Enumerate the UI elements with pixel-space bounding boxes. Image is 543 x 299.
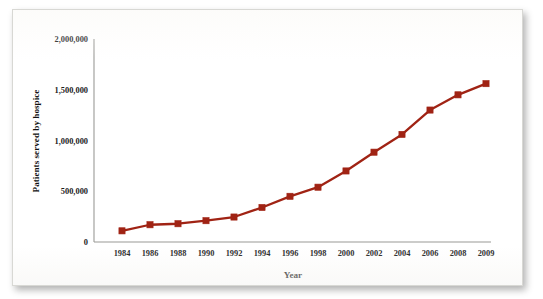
- x-tick-label: 2008: [450, 249, 467, 258]
- x-tick-labels: 1984198619881990199219941996199820002002…: [114, 249, 495, 258]
- y-axis-title: Patients served by hospice: [31, 90, 41, 193]
- data-point-marker: [287, 193, 293, 199]
- x-axis-title: Year: [284, 270, 302, 280]
- data-point-marker: [259, 204, 265, 210]
- x-tick-label: 2002: [366, 249, 383, 258]
- y-tick-label: 1,000,000: [55, 137, 89, 146]
- x-tick-label: 1988: [170, 249, 187, 258]
- data-point-marker: [399, 131, 405, 137]
- y-tick-label: 0: [84, 238, 88, 247]
- x-tick-label: 2004: [394, 249, 412, 258]
- line-chart: 0500,0001,000,0001,500,0002,000,000 1984…: [13, 10, 522, 285]
- data-point-marker: [203, 218, 209, 224]
- data-point-marker: [175, 221, 181, 227]
- x-tick-label: 1992: [226, 249, 243, 258]
- series-markers: [119, 81, 489, 234]
- x-tick-label: 2006: [422, 249, 439, 258]
- y-tick-label: 500,000: [61, 187, 88, 196]
- y-tick-labels: 0500,0001,000,0001,500,0002,000,000: [55, 35, 89, 247]
- y-tick-label: 2,000,000: [55, 35, 89, 44]
- x-tick-label: 1984: [114, 249, 132, 258]
- figure-root: 0500,0001,000,0001,500,0002,000,000 1984…: [0, 0, 543, 299]
- x-tick-label: 1998: [310, 249, 327, 258]
- x-tick-label: 2000: [338, 249, 355, 258]
- data-point-marker: [119, 228, 125, 234]
- data-point-marker: [483, 81, 489, 87]
- x-tick-label: 1994: [254, 249, 272, 258]
- data-point-marker: [455, 92, 461, 98]
- data-point-marker: [427, 107, 433, 113]
- x-tick-label: 2009: [478, 249, 495, 258]
- series-line-patients: [122, 84, 486, 231]
- x-tick-label: 1986: [142, 249, 159, 258]
- x-tick-label: 1996: [282, 249, 299, 258]
- plot-area: 0500,0001,000,0001,500,0002,000,000 1984…: [13, 10, 522, 285]
- x-tick-label: 1990: [198, 249, 215, 258]
- data-point-marker: [231, 214, 237, 220]
- data-point-marker: [371, 149, 377, 155]
- chart-card: 0500,0001,000,0001,500,0002,000,000 1984…: [12, 9, 523, 286]
- data-point-marker: [343, 168, 349, 174]
- y-tick-label: 1,500,000: [55, 86, 89, 95]
- data-point-marker: [315, 184, 321, 190]
- data-point-marker: [147, 222, 153, 228]
